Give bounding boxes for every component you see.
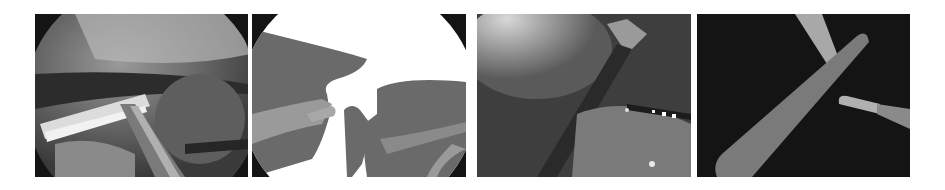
segmentation-mask [697,14,910,177]
endoscopic-image-panel-1 [35,14,248,177]
surgical-scene-image [477,14,691,177]
segmentation-mask-panel-4 [697,14,910,177]
segmentation-mask [252,14,466,177]
endoscopic-image-panel-3 [477,14,691,177]
surgical-scene-image [35,14,248,177]
segmentation-mask-panel-2 [252,14,466,177]
